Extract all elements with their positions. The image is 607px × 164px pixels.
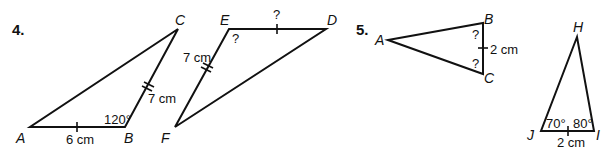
p5-vertex-h: H xyxy=(573,19,584,35)
p5-side-bc-length: 2 cm xyxy=(490,42,518,57)
p4-side-ef-length: 7 cm xyxy=(183,50,211,65)
p5-vertex-a: A xyxy=(374,32,384,48)
p4-angle-e-unknown: ? xyxy=(232,31,239,46)
p4-vertex-a: A xyxy=(15,130,25,146)
p5-vertex-c: C xyxy=(484,70,495,86)
geometry-diagram: 4. A B C 6 cm 7 cm 120° A E D F ? ? 7 cm… xyxy=(0,0,607,164)
p5-angle-c-unknown: ? xyxy=(472,56,479,71)
p5-triangle-hij: H J I 70° 80° 2 cm xyxy=(526,19,600,150)
p4-vertex-f: F xyxy=(161,130,171,146)
p5-angle-j-measure: 70° xyxy=(546,116,566,131)
p5-vertex-j: J xyxy=(526,127,535,143)
p5-side-ji-length: 2 cm xyxy=(557,135,585,150)
p5-triangle-abc-shape xyxy=(388,23,483,74)
p4-angle-b-measure: 120° xyxy=(104,112,131,127)
p5-angle-i-measure: 80° xyxy=(573,116,593,131)
p5-angle-b-unknown: ? xyxy=(472,27,479,42)
p4-side-ab-length: 6 cm xyxy=(66,132,94,147)
p4-triangle-abc: A B C 6 cm 7 cm 120° xyxy=(15,12,186,147)
p5-vertex-i: I xyxy=(596,127,600,143)
p4-side-bc-length: 7 cm xyxy=(148,91,176,106)
p4-vertex-b: B xyxy=(124,130,133,146)
p4-vertex-c: C xyxy=(175,12,186,28)
p4-vertex-d: D xyxy=(327,12,337,28)
p5-triangle-abc: A B C ? ? 2 cm xyxy=(374,11,518,86)
p4-triangle-def-shape xyxy=(175,29,326,127)
p5-vertex-b: B xyxy=(484,11,493,27)
problem-5-number: 5. xyxy=(356,21,369,38)
p4-triangle-def: A E D F ? ? 7 cm xyxy=(161,7,337,146)
p4-vertex-e-label: E xyxy=(220,12,230,28)
problem-4-number: 4. xyxy=(12,21,25,38)
p4-side-ed-unknown: ? xyxy=(273,7,280,22)
